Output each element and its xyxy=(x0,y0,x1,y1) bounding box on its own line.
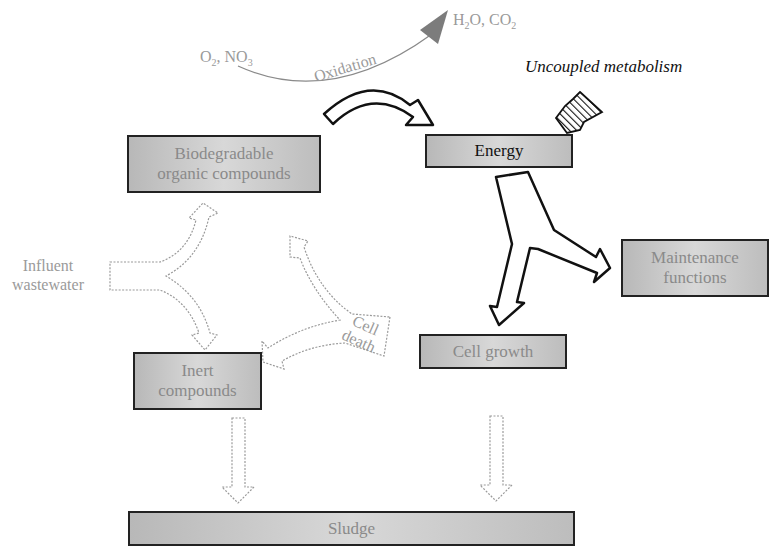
h2o-co2-label: H2O, CO2 xyxy=(453,10,516,35)
node-sludge: Sludge xyxy=(128,511,575,546)
node-energy: Energy xyxy=(425,134,573,168)
node-biodegradable-organic-compounds: Biodegradable organic compounds xyxy=(127,135,321,193)
o2-no3-label: O2, NO3 xyxy=(200,47,253,72)
uncoupled-metabolism-arrow xyxy=(556,92,602,133)
node-maintenance-functions: Maintenance functions xyxy=(621,239,769,297)
influent-wastewater-label: Influent wastewater xyxy=(12,256,84,294)
inert-to-sludge-arrow xyxy=(222,418,254,503)
influent-split-arrow xyxy=(110,203,218,350)
node-inert-compounds: Inert compounds xyxy=(133,352,262,410)
node-cell-growth: Cell growth xyxy=(419,334,567,369)
energy-input-arrow xyxy=(324,90,433,125)
energy-split-arrow xyxy=(490,172,610,325)
uncoupled-metabolism-label: Uncoupled metabolism xyxy=(525,57,682,76)
cellgrowth-to-sludge-arrow xyxy=(480,416,512,501)
